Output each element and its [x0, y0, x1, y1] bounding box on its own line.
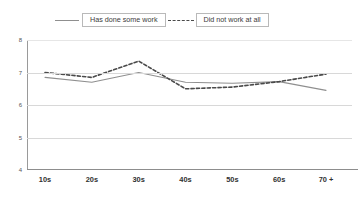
- chart-legend: Has done some work Did not work at all: [52, 13, 269, 27]
- legend-label-has-done-some-work: Has done some work: [82, 13, 166, 27]
- y-tick-5: 5: [19, 135, 22, 141]
- x-tick-30s: 30s: [132, 176, 144, 183]
- legend-entry-has-done-some-work: Has done some work: [52, 13, 166, 27]
- x-tick-20s: 20s: [86, 176, 98, 183]
- series-path-2: [45, 61, 326, 89]
- x-tick-50s: 50s: [226, 176, 238, 183]
- y-axis-tick-labels: 87654: [0, 40, 26, 170]
- solid-line-sample-icon: [52, 15, 82, 25]
- legend-label-did-not-work-at-all: Did not work at all: [196, 13, 269, 27]
- plot-wrapper: 87654: [0, 40, 360, 170]
- legend-entry-did-not-work-at-all: Did not work at all: [166, 13, 269, 27]
- y-tick-4: 4: [19, 167, 22, 173]
- line-chart: Has done some work Did not work at all 8…: [0, 0, 360, 204]
- dashed-line-sample-icon: [166, 15, 196, 25]
- y-tick-8: 8: [19, 37, 22, 43]
- gridline-6: [27, 105, 352, 106]
- x-axis-tick-labels: 10s20s30s40s50s60s70 +: [27, 176, 352, 192]
- x-tick-60s: 60s: [273, 176, 285, 183]
- y-tick-6: 6: [19, 102, 22, 108]
- gridline-5: [27, 138, 352, 139]
- x-tick-70: 70 +: [319, 176, 334, 183]
- plot-area: [27, 40, 352, 170]
- x-tick-10s: 10s: [39, 176, 51, 183]
- y-tick-7: 7: [19, 70, 22, 76]
- x-tick-40s: 40s: [179, 176, 191, 183]
- gridline-7: [27, 73, 352, 74]
- gridline-8: [27, 40, 352, 41]
